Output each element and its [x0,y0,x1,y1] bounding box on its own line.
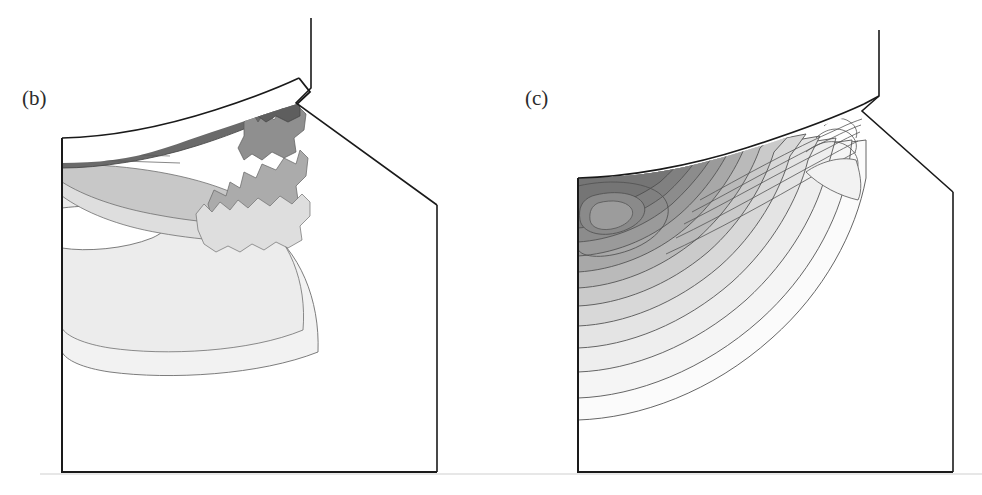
panel-b: (b) [22,18,450,485]
panel-b-label: (b) [22,86,47,110]
contour-line-chip-inner [72,146,150,150]
contour-figure: (b) [0,0,982,495]
panel-c-label: (c) [525,86,548,110]
panel-c: (c) [525,30,965,490]
panel-c-contour-field [570,100,965,490]
panel-b-contour-field [55,78,450,485]
